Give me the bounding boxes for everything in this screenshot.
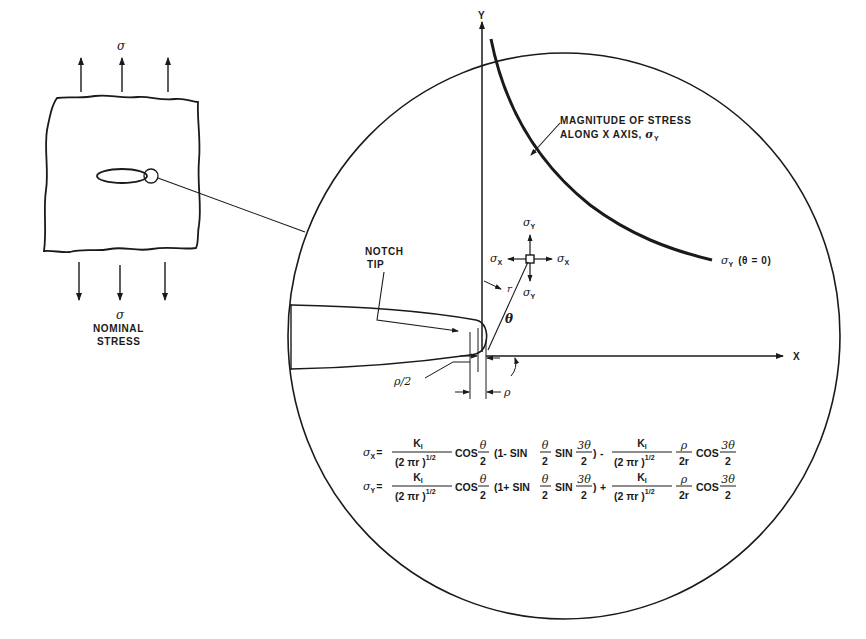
notch-label-line2: TIP — [367, 259, 384, 270]
top-stress-arrows — [81, 58, 168, 92]
notch-leader-arrow — [377, 272, 458, 331]
svg-text:θ: θ — [542, 439, 549, 452]
svg-text:θ: θ — [480, 439, 487, 452]
element-sigma-top: σY — [523, 216, 536, 230]
svg-text:): ) — [593, 481, 597, 493]
notch-ellipse — [97, 169, 147, 183]
theta-arc-arrow — [511, 358, 516, 376]
rho-label: ρ — [503, 386, 511, 399]
svg-text:3θ: 3θ — [577, 439, 591, 452]
svg-text:2: 2 — [542, 489, 548, 501]
svg-text:σX=: σX= — [363, 446, 382, 460]
svg-text:2: 2 — [725, 489, 731, 501]
notch-label-line1: NOTCH — [365, 246, 404, 257]
element-sigma-right: σX — [557, 252, 570, 266]
notch-body — [291, 305, 487, 369]
element-square — [526, 255, 534, 263]
top-sigma-label: σ — [117, 39, 126, 53]
svg-text:ρ: ρ — [680, 473, 688, 486]
svg-text:θ: θ — [542, 473, 549, 486]
svg-text:3θ: 3θ — [577, 473, 591, 486]
svg-text:2r: 2r — [679, 489, 689, 501]
bottom-sigma-label: σ — [116, 308, 125, 322]
plate-panel: σ σ NOMINAL STRESS — [44, 39, 305, 347]
plate-outline — [44, 96, 200, 253]
svg-text:COS: COS — [696, 481, 719, 493]
equation-sigma-y: σY= KI (2 πr )1/2 COS θ 2 (1+ SIN θ 2 SI… — [363, 471, 736, 502]
svg-text:-: - — [600, 447, 604, 459]
svg-text:(1- SIN: (1- SIN — [494, 447, 527, 459]
equation-sigma-x: σX= KI (2 πr )1/2 COS θ 2 (1- SIN θ 2 SI… — [363, 437, 736, 468]
rho-half-label: ρ/2 — [393, 375, 411, 388]
svg-text:2: 2 — [480, 455, 486, 467]
svg-text:KI: KI — [413, 437, 423, 450]
svg-text:σY=: σY= — [363, 480, 382, 494]
element-sigma-bottom: σY — [523, 286, 536, 300]
stress-label: STRESS — [97, 336, 141, 347]
svg-text:3θ: 3θ — [721, 439, 735, 452]
svg-text:): ) — [593, 447, 597, 459]
svg-text:+: + — [600, 481, 606, 493]
svg-text:2: 2 — [480, 489, 486, 501]
svg-text:KI: KI — [637, 471, 647, 484]
bottom-stress-arrows — [79, 262, 165, 300]
curve-label-line2: ALONG X AXIS, σY — [560, 128, 659, 142]
element-sigma-left: σX — [490, 252, 503, 266]
curve-leader-arrow — [531, 123, 560, 155]
svg-text:KI: KI — [637, 437, 647, 450]
curve-label-line1: MAGNITUDE OF STRESS — [560, 115, 691, 126]
svg-text:(1+ SIN: (1+ SIN — [494, 481, 530, 493]
svg-text:(2 πr )1/2: (2 πr )1/2 — [614, 488, 655, 502]
notch-stress-diagram: σ σ NOMINAL STRESS Y X MAGNITUDE OF STRE… — [0, 0, 866, 639]
radius-line — [488, 262, 528, 350]
svg-text:(2 πr )1/2: (2 πr )1/2 — [395, 454, 436, 468]
svg-text:COS: COS — [455, 447, 478, 459]
svg-text:KI: KI — [413, 471, 423, 484]
curve-end-label: σY(θ = 0) — [721, 254, 771, 268]
svg-text:(2 πr )1/2: (2 πr )1/2 — [614, 454, 655, 468]
svg-text:2: 2 — [725, 455, 731, 467]
svg-text:(2 πr )1/2: (2 πr )1/2 — [395, 488, 436, 502]
svg-text:COS: COS — [696, 447, 719, 459]
svg-text:θ: θ — [480, 473, 487, 486]
svg-text:COS: COS — [455, 481, 478, 493]
svg-text:3θ: 3θ — [721, 473, 735, 486]
nominal-label: NOMINAL — [93, 323, 144, 334]
stress-element: σY σY σX σX — [490, 216, 570, 300]
svg-text:2: 2 — [542, 455, 548, 467]
svg-text:2: 2 — [581, 455, 587, 467]
magnified-view: Y X MAGNITUDE OF STRESS ALONG X AXIS, σY… — [288, 10, 840, 619]
r-pointer-arrow — [484, 281, 501, 289]
svg-text:ρ: ρ — [680, 439, 688, 452]
svg-text:2: 2 — [581, 489, 587, 501]
magnify-leader-line — [158, 178, 305, 232]
r-label: r — [507, 283, 513, 294]
svg-text:2r: 2r — [679, 455, 689, 467]
svg-text:SIN: SIN — [555, 447, 573, 459]
rho-half-leader — [425, 362, 470, 378]
theta-label: θ — [505, 312, 513, 326]
x-axis-label: X — [793, 351, 800, 362]
svg-text:SIN: SIN — [555, 481, 573, 493]
y-axis-label: Y — [478, 10, 485, 21]
